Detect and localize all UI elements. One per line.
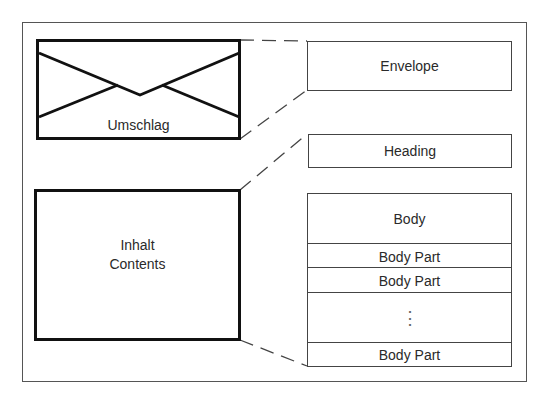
envelope-field-label: Envelope — [380, 58, 438, 74]
envelope-field: Envelope — [307, 41, 512, 91]
contents-box: Inhalt Contents — [34, 189, 241, 341]
envelope-label: Umschlag — [39, 117, 238, 133]
vertical-ellipsis-icon: ⋮ — [401, 307, 419, 329]
body-part-label: Body Part — [379, 347, 440, 363]
body-part-2: Body Part — [308, 267, 511, 293]
body-part-1: Body Part — [308, 243, 511, 269]
envelope-box: Umschlag — [36, 39, 241, 140]
body-part-ellipsis: ⋮ — [308, 292, 511, 343]
body-stack: Body Body Part Body Part ⋮ Body Part — [307, 193, 512, 367]
body-part-label: Body Part — [379, 273, 440, 289]
body-header: Body — [308, 194, 511, 244]
heading-field: Heading — [308, 134, 512, 168]
body-label: Body — [394, 211, 426, 227]
contents-label-de: Inhalt — [37, 236, 238, 255]
body-part-last: Body Part — [308, 342, 511, 367]
contents-label-en: Contents — [37, 255, 238, 274]
body-part-label: Body Part — [379, 249, 440, 265]
heading-field-label: Heading — [384, 143, 436, 159]
